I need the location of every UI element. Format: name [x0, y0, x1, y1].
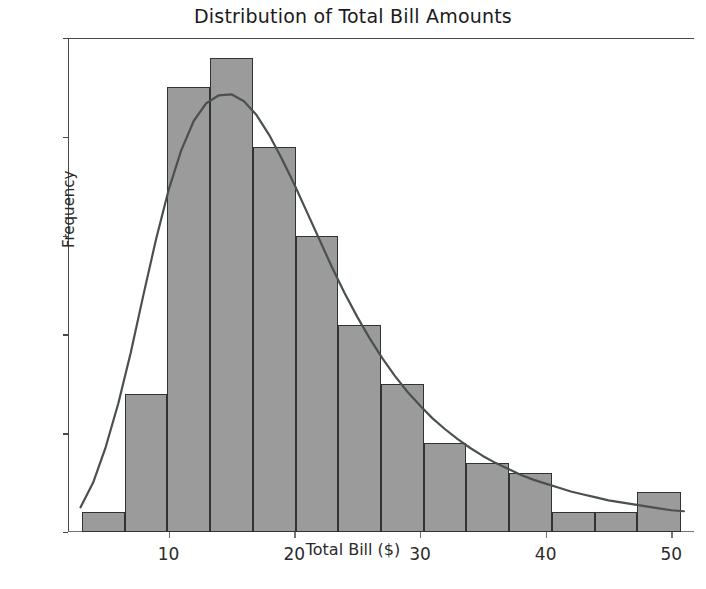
x-axis-label: Total Bill ($): [0, 540, 706, 559]
kde-curve-path: [81, 94, 684, 511]
y-tick-mark: [63, 532, 68, 533]
x-tick-mark: [546, 532, 547, 538]
x-tick-mark: [294, 532, 295, 538]
plot-area: Frequency 010203040501020304050: [68, 38, 694, 532]
x-tick-mark: [169, 532, 170, 538]
kde-curve-svg: [68, 38, 694, 532]
kde-curve-layer: [68, 38, 694, 532]
chart-title: Distribution of Total Bill Amounts: [0, 5, 706, 27]
x-tick-mark: [420, 532, 421, 538]
x-tick-mark: [671, 532, 672, 538]
histogram-figure: Distribution of Total Bill Amounts Frequ…: [0, 0, 706, 589]
